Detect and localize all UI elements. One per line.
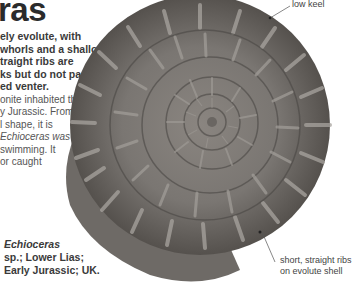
specimen-caption: Echioceras sp.; Lower Lias; Early Jurass…: [4, 238, 100, 277]
annotation-low-keel: low keel: [292, 0, 325, 10]
annotation-ribs-line1: short, straight ribs: [280, 255, 352, 266]
caption-genus: Echioceras: [4, 238, 100, 251]
caption-line2: sp.; Lower Lias;: [4, 251, 100, 264]
annotation-ribs: short, straight ribs on evolute shell: [280, 255, 352, 277]
caption-line3: Early Jurassic; UK.: [4, 264, 100, 277]
keel-leader-line: [270, 6, 290, 18]
ribs-leader-line: [262, 232, 275, 262]
annotation-ribs-line2: on evolute shell: [280, 266, 352, 277]
